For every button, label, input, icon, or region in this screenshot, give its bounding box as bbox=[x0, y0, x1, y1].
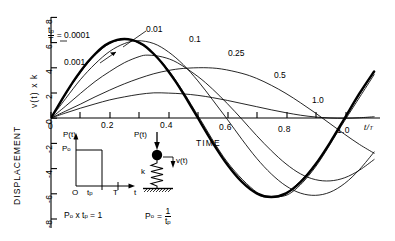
x-tick-label-0: 0 bbox=[48, 121, 53, 131]
eq-right-p-sub: o bbox=[151, 213, 154, 219]
eq-left-tail: = 1 bbox=[90, 210, 102, 220]
pulse-level-sub: o bbox=[67, 146, 70, 152]
curve-label-01: 0.1 bbox=[189, 34, 201, 44]
x-axis-ratio-den: T bbox=[369, 125, 374, 131]
y-tick-label-4: 4 bbox=[44, 69, 54, 74]
equation-amplitude: Po = 1 tp bbox=[145, 207, 171, 226]
pulse-T-label: T bbox=[113, 188, 118, 197]
force-arrow bbox=[154, 142, 160, 150]
y-tick-label-neg8: -8 bbox=[44, 220, 54, 228]
y-tick-label-neg6: -6 bbox=[44, 195, 54, 203]
ratio-annotation: tp T = 0.0001 bbox=[48, 26, 90, 44]
oscillator-force-label: P(t) bbox=[134, 130, 147, 139]
equation-impulse: Po x tp = 1 bbox=[64, 210, 102, 220]
ratio-denominator: T bbox=[48, 35, 54, 45]
y-tick-label-neg4: -4 bbox=[44, 170, 54, 178]
eq-right-den-sub: p bbox=[167, 219, 170, 225]
x-tick-label-10: 1.0 bbox=[337, 125, 350, 135]
curve-label-001: 0.01 bbox=[146, 24, 163, 34]
x-tick-label-08: 0.8 bbox=[278, 124, 291, 134]
displacement-arrow bbox=[171, 161, 176, 168]
y-tick-label-8: 8 bbox=[44, 19, 54, 24]
y-tick-label-neg2: -2 bbox=[44, 145, 54, 153]
eq-right-numerator: 1 bbox=[165, 207, 171, 216]
eq-right-equals: = bbox=[157, 211, 162, 221]
pulse-level-label: Po bbox=[62, 144, 71, 153]
eq-left-rest-sub: p bbox=[84, 213, 87, 219]
pulse-yaxis-label: P(t) bbox=[63, 130, 76, 139]
curve-label-0001: 0.001 bbox=[64, 57, 85, 67]
oscillator-displacement-label: v(t) bbox=[176, 156, 188, 165]
pulse-tp-sub: p bbox=[89, 190, 92, 196]
ground-hatching bbox=[144, 189, 171, 192]
pulse-tp-label: tp bbox=[87, 188, 93, 197]
curve-label-05: 0.5 bbox=[274, 70, 286, 80]
y-tick-label-2: 2 bbox=[44, 94, 54, 99]
curve-label-025: 0.25 bbox=[228, 48, 245, 58]
curve-label-10: 1.0 bbox=[312, 95, 324, 105]
oscillator-spring-label: k bbox=[141, 167, 145, 176]
curve-1-0 bbox=[51, 93, 374, 118]
pulse-rectangle bbox=[76, 150, 102, 186]
spring-coil bbox=[151, 160, 163, 188]
eq-left-p-sub: o bbox=[70, 213, 73, 219]
mass-circle bbox=[152, 150, 162, 160]
ratio-value: = 0.0001 bbox=[57, 31, 90, 40]
x-axis-ratio-symbol: t/T bbox=[364, 124, 373, 132]
x-tick-label-06: 0.6 bbox=[219, 122, 232, 132]
figure-root: DISPLACEMENT v(t) x k bbox=[0, 0, 395, 241]
ratio-numerator-sub: p bbox=[50, 28, 53, 34]
pulse-origin-label: O bbox=[72, 188, 78, 197]
